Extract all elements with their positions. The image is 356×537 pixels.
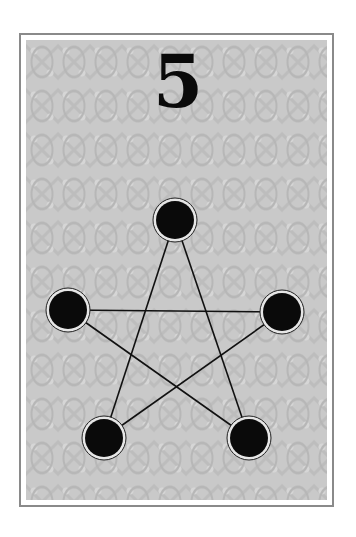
pip-bottom-left[interactable] [82,416,126,460]
pentagram-diagram [0,0,356,537]
pip-left[interactable] [46,288,90,332]
pip-top[interactable] [153,198,197,242]
pip-bottom-right[interactable] [227,416,271,460]
star-lines [68,220,282,438]
pip-right[interactable] [260,290,304,334]
